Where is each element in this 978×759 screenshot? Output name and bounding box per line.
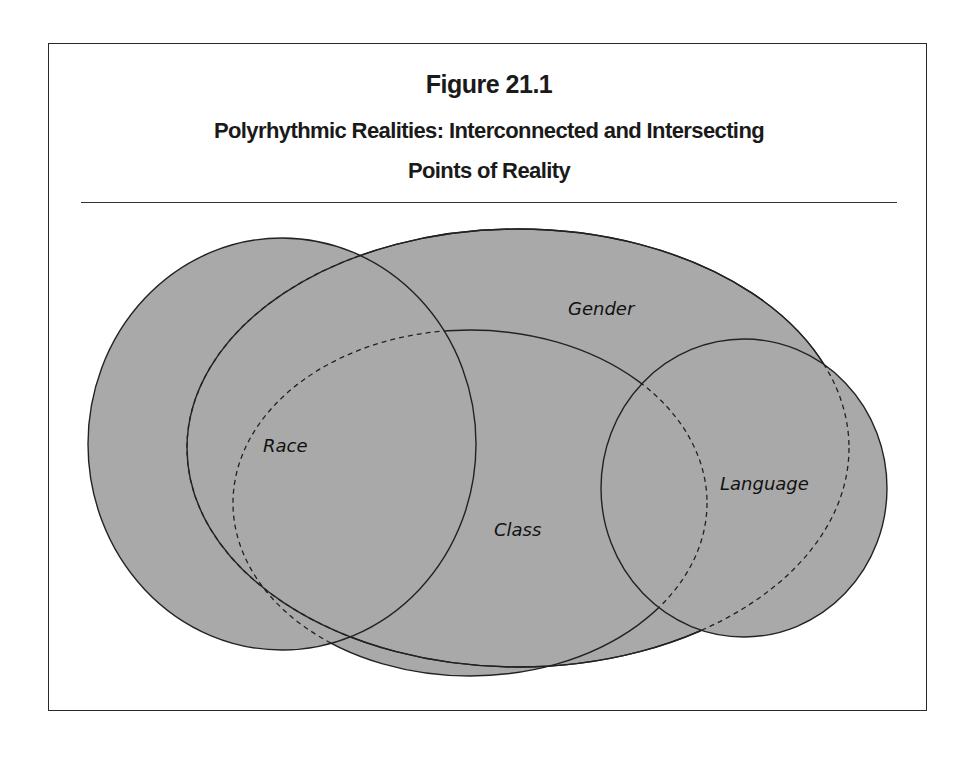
label-race: Race xyxy=(263,435,308,456)
label-class: Class xyxy=(494,519,541,540)
label-language: Language xyxy=(720,473,809,494)
venn-diagram: Race Gender Class Language xyxy=(0,0,978,759)
label-gender: Gender xyxy=(568,298,636,319)
